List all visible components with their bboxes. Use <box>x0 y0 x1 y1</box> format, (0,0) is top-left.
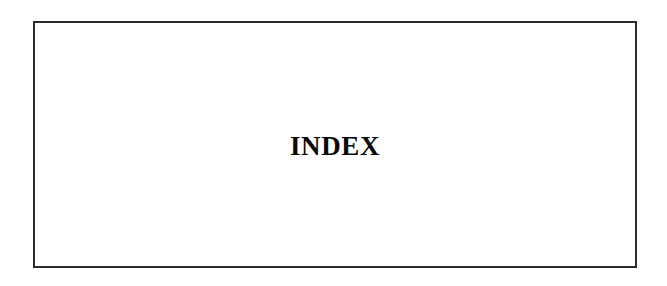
page-title: INDEX <box>290 133 380 160</box>
page-border-frame: INDEX <box>33 21 637 268</box>
document-page: INDEX <box>0 0 667 286</box>
